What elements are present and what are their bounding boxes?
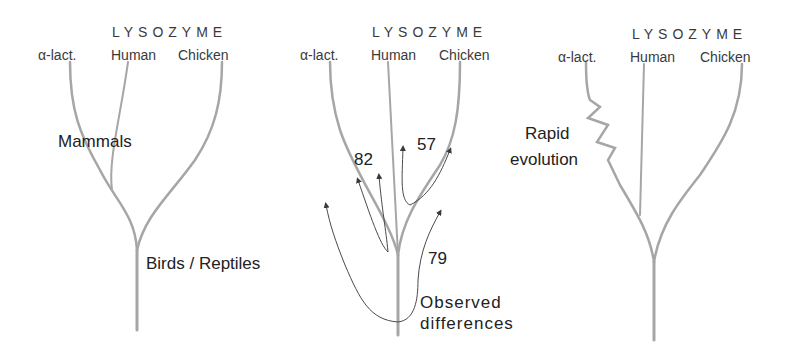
tree-panel-middle: LYSOZYME α-lact. Human Chicken 82 57 79 … xyxy=(270,0,530,358)
leaf-human: Human xyxy=(371,47,416,63)
difference-57-label: 57 xyxy=(417,135,436,155)
difference-79-label: 79 xyxy=(428,249,447,269)
tree-panel-left: LYSOZYME α-lact. Human Chicken Mammals B… xyxy=(0,0,270,358)
lysozyme-label: LYSOZYME xyxy=(632,26,747,42)
lysozyme-label: LYSOZYME xyxy=(112,24,227,40)
leaf-chicken: Chicken xyxy=(178,47,229,63)
differences-label: differences xyxy=(420,314,514,334)
lysozyme-label: LYSOZYME xyxy=(372,24,487,40)
leaf-alpha-lactalbumin: α-lact. xyxy=(300,47,338,63)
birds-reptiles-label: Birds / Reptiles xyxy=(146,254,260,274)
tree-panel-right: LYSOZYME α-lact. Human Chicken Rapid evo… xyxy=(520,0,794,358)
evolution-label: evolution xyxy=(510,150,578,170)
leaf-alpha-lactalbumin: α-lact. xyxy=(38,47,76,63)
mammals-label: Mammals xyxy=(58,132,132,152)
observed-label: Observed xyxy=(420,293,502,313)
leaf-human: Human xyxy=(111,47,156,63)
leaf-chicken: Chicken xyxy=(700,49,751,65)
leaf-alpha-lactalbumin: α-lact. xyxy=(558,49,596,65)
leaf-human: Human xyxy=(630,49,675,65)
difference-82-label: 82 xyxy=(354,150,373,170)
leaf-chicken: Chicken xyxy=(439,47,490,63)
rapid-label: Rapid xyxy=(525,124,569,144)
